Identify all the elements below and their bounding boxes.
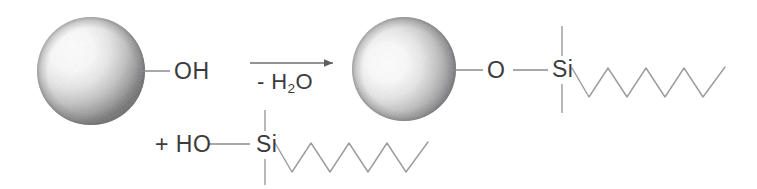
arrow-condition-prefix: - (257, 69, 265, 94)
arrow-condition-formula: H (271, 69, 287, 94)
alkyl-chain-reactant (275, 142, 428, 172)
alkyl-chain-product (572, 67, 725, 97)
silicon-label-reactant: Si (256, 133, 277, 156)
reaction-arrow (250, 59, 333, 67)
oxygen-bridge-label-product: O (487, 59, 505, 82)
reactant-particle-sphere (37, 17, 145, 125)
silane-hydroxyl-label-reactant: + HO (155, 133, 211, 156)
silicon-label-product: Si (552, 58, 573, 81)
arrow-condition-suffix: O (296, 69, 314, 94)
arrow-condition-label: - H2O (257, 71, 313, 93)
scheme-vector-layer (0, 0, 757, 189)
reaction-scheme-figure: OH - H2O + HO Si O Si (0, 0, 757, 189)
arrow-condition-subscript: 2 (288, 81, 296, 96)
product-particle-sphere (352, 17, 456, 121)
hydroxyl-label-reactant: OH (174, 60, 210, 83)
